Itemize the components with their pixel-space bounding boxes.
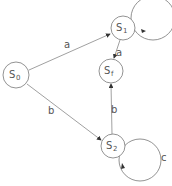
edge-label-s1-sf: a bbox=[116, 47, 122, 58]
state-s1: S 1 bbox=[111, 16, 135, 40]
edge-label-s0-s1: a bbox=[64, 39, 70, 50]
state-s2: S 2 bbox=[101, 134, 125, 158]
svg-text:0: 0 bbox=[16, 74, 20, 82]
svg-text:S: S bbox=[106, 140, 112, 151]
svg-text:2: 2 bbox=[113, 145, 117, 153]
edge-label-s2-sf: b bbox=[111, 104, 117, 115]
svg-text:S: S bbox=[104, 65, 110, 76]
edge-s0-s2 bbox=[27, 84, 101, 140]
self-loop-s2-arrow-icon bbox=[121, 163, 125, 169]
state-diagram: a b a b c S 0 S 1 S f S 2 bbox=[0, 0, 172, 186]
edge-label-s0-s2: b bbox=[48, 105, 54, 116]
state-s0: S 0 bbox=[3, 62, 29, 88]
svg-text:S: S bbox=[9, 69, 15, 80]
svg-text:1: 1 bbox=[123, 27, 127, 35]
self-loop-s1 bbox=[131, 0, 172, 40]
state-sf: S f bbox=[99, 59, 123, 83]
svg-text:S: S bbox=[116, 22, 122, 33]
self-loop-s1-arrow-icon bbox=[141, 29, 146, 33]
self-loop-s2-label: c bbox=[161, 152, 167, 163]
